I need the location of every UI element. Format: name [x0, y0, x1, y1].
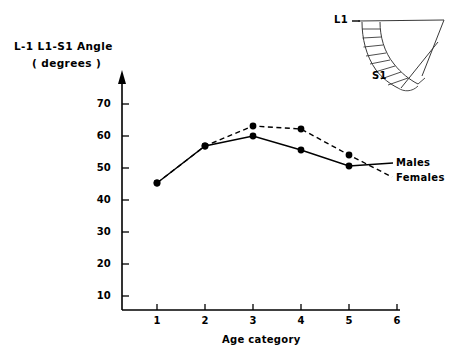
diagram-label-l1: L1	[334, 14, 348, 25]
data-point	[154, 180, 161, 187]
x-tick-label: 2	[197, 315, 213, 326]
y-tick-label: 30	[85, 226, 111, 237]
x-tick-label: 1	[149, 315, 165, 326]
y-tick-label: 50	[85, 162, 111, 173]
y-tick-label: 20	[85, 258, 111, 269]
x-axis	[122, 304, 400, 310]
data-point	[202, 143, 209, 150]
series-females	[154, 123, 392, 187]
y-tick-label: 70	[85, 98, 111, 109]
data-point	[298, 126, 305, 133]
diagram-label-s1: S1	[372, 70, 387, 81]
y-tick-label: 60	[85, 130, 111, 141]
data-point	[250, 133, 257, 140]
legend-label-females: Females	[396, 172, 445, 183]
data-point	[250, 123, 257, 130]
data-point	[346, 163, 353, 170]
x-tick-label: 6	[389, 315, 405, 326]
x-tick-label: 4	[293, 315, 309, 326]
data-point	[346, 152, 353, 159]
x-tick-label: 5	[341, 315, 357, 326]
x-axis-title: Age category	[222, 334, 300, 345]
y-tick-label: 10	[85, 290, 111, 301]
y-axis	[118, 70, 129, 310]
legend-label-males: Males	[396, 157, 430, 168]
y-tick-label: 40	[85, 194, 111, 205]
chart-container: L-1 L1-S1 Angle ( degrees )	[0, 0, 468, 357]
x-tick-label: 3	[245, 315, 261, 326]
y-axis-arrowhead	[118, 70, 126, 84]
data-point	[298, 147, 305, 154]
